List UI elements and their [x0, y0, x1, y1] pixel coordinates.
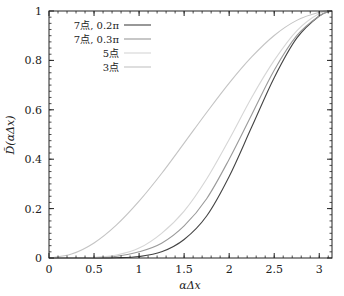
x-tick-label: 0.5	[85, 263, 103, 276]
y-tick-label: 0	[35, 252, 42, 265]
y-tick-label: 1	[35, 5, 42, 18]
legend-label: 3点	[103, 62, 119, 73]
x-tick-label: 3	[316, 263, 323, 276]
y-axis-label: D̃(αΔx)	[4, 116, 17, 156]
line-chart: 00.511.522.5300.20.40.60.81 7点, 0.2π7点, …	[0, 0, 344, 296]
y-tick-label: 0.6	[25, 104, 43, 117]
legend-label: 5点	[103, 48, 119, 59]
x-tick-label: 1	[136, 263, 143, 276]
legend-label: 7点, 0.2π	[74, 20, 120, 31]
x-tick-label: 2.5	[265, 263, 283, 276]
plot-area	[49, 11, 332, 258]
y-tick-label: 0.4	[25, 153, 43, 166]
x-axis-label: αΔx	[179, 279, 201, 292]
x-tick-label: 1.5	[175, 263, 193, 276]
series-line-3	[49, 11, 332, 258]
y-tick-label: 0.8	[25, 54, 43, 67]
y-tick-label: 0.2	[25, 203, 43, 216]
x-tick-label: 2	[226, 263, 233, 276]
x-tick-label: 0	[46, 263, 53, 276]
legend-label: 7点, 0.3π	[74, 34, 120, 45]
axes: 00.511.522.5300.20.40.60.81	[25, 5, 333, 276]
legend: 7点, 0.2π7点, 0.3π5点3点	[74, 20, 151, 73]
